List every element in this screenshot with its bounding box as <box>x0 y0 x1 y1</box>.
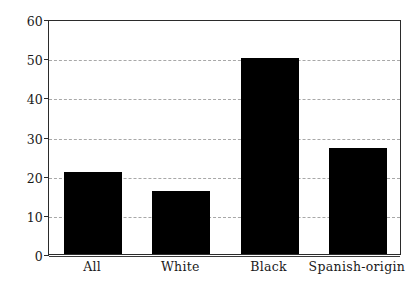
y-axis-tick-mark-60 <box>44 20 49 21</box>
x-axis-tick-label: White <box>161 259 200 274</box>
x-axis-tick-label: Spanish-origin <box>309 259 406 274</box>
y-axis-tick-mark-40 <box>44 98 49 99</box>
gridline-50 <box>49 60 400 61</box>
bar <box>329 148 387 254</box>
y-axis-tick-mark-50 <box>44 59 49 60</box>
y-axis-tick-label: 0 <box>35 249 43 264</box>
gridline-30 <box>49 139 400 140</box>
y-axis-tick-mark-10 <box>44 216 49 217</box>
bar <box>152 191 210 254</box>
y-axis-tick-label: 60 <box>27 14 43 29</box>
y-axis-tick-label: 30 <box>27 131 43 146</box>
x-axis-tick-label: All <box>83 259 101 274</box>
y-axis-tick-mark-0 <box>44 255 49 256</box>
y-axis-tick-label: 50 <box>27 53 43 68</box>
y-axis-tick-mark-30 <box>44 138 49 139</box>
y-axis-tick-mark-20 <box>44 177 49 178</box>
bar-chart: 0102030405060 AllWhiteBlackSpanish-origi… <box>0 0 418 296</box>
gridline-0 <box>49 256 400 257</box>
gridline-40 <box>49 99 400 100</box>
plot-area: 0102030405060 <box>48 20 401 255</box>
bar <box>241 58 299 254</box>
x-axis-tick-label: Black <box>250 259 287 274</box>
y-axis-tick-label: 20 <box>27 170 43 185</box>
y-axis-tick-label: 40 <box>27 92 43 107</box>
y-axis-tick-label: 10 <box>27 209 43 224</box>
bar <box>64 172 122 254</box>
